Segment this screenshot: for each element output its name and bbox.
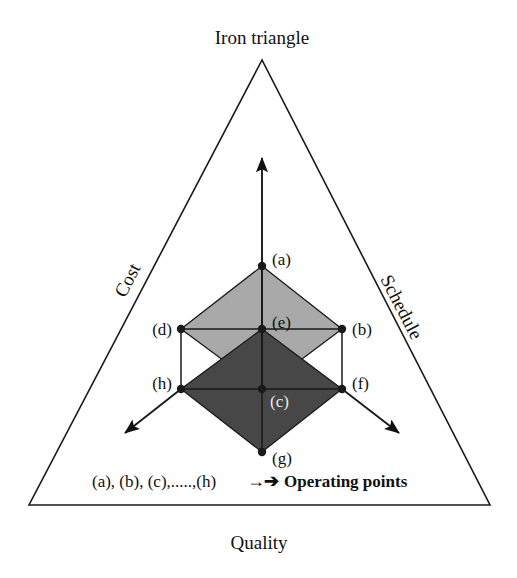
operating-point-h-label: (h) [152, 374, 172, 393]
arrow-down-right-icon [342, 389, 399, 433]
iron-triangle-diagram: Iron triangle Cost Schedule Quality (a)(… [0, 0, 517, 578]
operating-point-d-label: (d) [152, 320, 172, 339]
legend-points-list: (a), (b), (c),.....,(h) [92, 472, 216, 491]
figure-title: Iron triangle [215, 27, 309, 48]
operating-point-c-dot[interactable] [258, 385, 266, 393]
operating-point-a-label: (a) [272, 250, 291, 269]
operating-point-d-dot[interactable] [177, 325, 185, 333]
operating-point-b-dot[interactable] [338, 325, 346, 333]
operating-point-h-dot[interactable] [177, 385, 185, 393]
operating-point-c-label: (c) [270, 392, 289, 411]
operating-point-e-label: (e) [272, 313, 291, 332]
operating-point-b-label: (b) [352, 320, 372, 339]
legend-arrow-icon: → [247, 471, 265, 491]
legend-meaning-label: Operating points [284, 472, 408, 491]
legend: (a), (b), (c),.....,(h) → ➔ Operating po… [92, 471, 408, 491]
operating-point-e-dot[interactable] [258, 325, 266, 333]
legend-arrow-bold-icon: ➔ [264, 471, 279, 491]
operating-point-g-dot[interactable] [258, 448, 266, 456]
operating-point-a-dot[interactable] [258, 262, 266, 270]
operating-point-g-label: (g) [272, 449, 292, 468]
arrow-down-left-icon [125, 389, 181, 433]
iron-triangle-figure: Iron triangle Cost Schedule Quality (a)(… [0, 0, 517, 578]
axis-label-quality: Quality [231, 532, 288, 553]
operating-point-f-dot[interactable] [338, 385, 346, 393]
operating-point-f-label: (f) [352, 374, 369, 393]
